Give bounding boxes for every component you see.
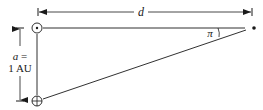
baseline-var-label: a = — [13, 50, 27, 62]
parallax-angle-label: π — [207, 27, 213, 39]
baseline-value-label: 1 AU — [8, 62, 32, 74]
earth-icon — [32, 96, 42, 106]
parallax-arc — [218, 28, 219, 37]
distance-label: d — [138, 5, 145, 19]
baseline-dimension: a = 1 AU — [8, 28, 32, 101]
star-icon — [252, 26, 256, 30]
parallax-diagram: d a = 1 AU π — [0, 0, 263, 110]
sun-icon — [32, 23, 42, 33]
distance-dimension: d — [38, 5, 252, 19]
diagram-canvas: d a = 1 AU π — [0, 0, 263, 110]
edge-earth-star — [43, 30, 246, 99]
